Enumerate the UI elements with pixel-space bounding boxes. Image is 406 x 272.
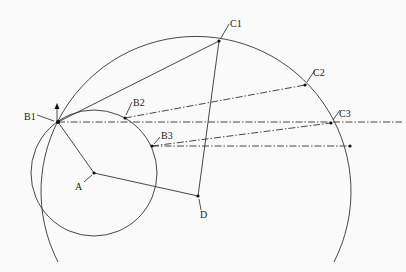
label-a: A — [75, 181, 83, 192]
leader-b3 — [154, 137, 160, 144]
label-d: D — [200, 209, 207, 220]
point-b1 — [56, 120, 60, 124]
label-c2: C2 — [313, 67, 325, 78]
leader-b1 — [37, 115, 54, 121]
point-b2 — [123, 116, 126, 119]
leader-b2 — [126, 102, 132, 115]
label-c3: C3 — [339, 108, 351, 119]
link-b1-c1 — [58, 41, 219, 122]
mechanism-diagram: B1 B2 B3 C1 C2 C3 A D — [0, 0, 406, 272]
point-b3 — [150, 144, 153, 147]
link-c1-d — [198, 41, 219, 196]
large-arc — [41, 36, 351, 262]
link-a-d — [94, 173, 198, 196]
link-a-b1 — [58, 122, 94, 173]
line-b2-c2 — [125, 85, 305, 118]
point-d — [196, 194, 199, 197]
label-b2: B2 — [133, 97, 145, 108]
leader-a — [84, 175, 92, 182]
arrow-up-icon — [55, 103, 60, 109]
label-b1: B1 — [24, 111, 36, 122]
point-c2 — [303, 83, 306, 86]
leader-c1 — [221, 24, 229, 38]
label-c1: C1 — [230, 18, 242, 29]
point-a — [92, 171, 95, 174]
label-b3: B3 — [161, 130, 173, 141]
line-b3-c3 — [152, 123, 331, 146]
point-c1 — [217, 39, 220, 42]
point-c3 — [329, 121, 332, 124]
projection-point — [348, 144, 351, 147]
